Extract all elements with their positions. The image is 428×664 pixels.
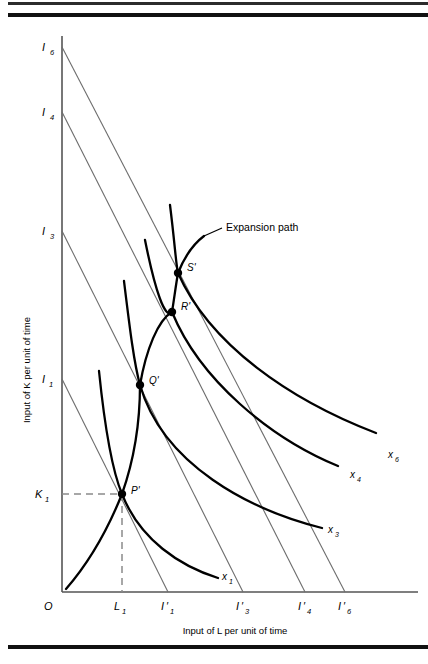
expansion-path-curve [66,236,204,589]
isoquant-label-sub-x3: 3 [335,531,339,538]
x-tick-label-I6-prime: I ′ 6 [338,600,352,616]
isoquant-label-base-x6: x [387,449,394,460]
y-tick-label-I1: I 1 [42,373,53,389]
tangency-point-R [168,308,176,316]
x-tick-sub-L1: 1 [122,607,126,616]
y-tick-sub-I3: 3 [50,232,55,241]
x-tick-base-I3prime: I [236,600,239,612]
y-axis-title: Input of K per unit of time [21,317,32,423]
tangency-point-Q [136,381,144,389]
isoquant-label-x3: x 3 [327,524,339,538]
isoquant-curve-x1 [99,371,218,578]
tangency-label-R: R' [181,301,191,312]
y-tick-base-K1: K [35,488,43,500]
isoquant-label-sub-x6: 6 [395,456,399,463]
x-tick-prime-I3prime: ′ [241,600,244,612]
x-tick-base-I6prime: I [338,600,341,612]
x-tick-prime-I6prime: ′ [343,600,346,612]
y-tick-label-I6: I 6 [42,41,55,57]
isoquant-label-base-x1: x [221,571,228,582]
tangency-point-P [118,490,126,498]
isocost-line-4 [62,112,305,592]
x-tick-label-I1-prime: I ′ 1 [161,600,174,616]
y-tick-label-I3: I 3 [42,225,55,241]
x-axis-title: Input of L per unit of time [183,625,288,636]
isoquant-label-base-x4: x [349,469,356,480]
expansion-path-leader-line [204,228,222,236]
tangency-point-S [174,269,182,277]
tangency-label-S: S' [187,262,197,273]
isoquant-label-x4: x 4 [349,469,361,483]
y-tick-sub-K1: 1 [45,495,49,504]
isoquant-label-sub-x1: 1 [229,578,233,585]
isocost-line-6 [62,47,345,592]
x-tick-sub-I4prime: 4 [307,607,311,616]
figure-container: P' Q' R' S' Expansion path I 6 I 4 I 3 I… [0,0,428,664]
y-tick-base-I3: I [42,225,45,237]
tangency-label-Q: Q' [149,375,160,386]
y-tick-sub-I6: 6 [50,48,55,57]
y-tick-sub-I4: 4 [50,113,54,122]
isoquant-expansion-path-chart: P' Q' R' S' Expansion path I 6 I 4 I 3 I… [0,0,428,664]
expansion-path-annotation: Expansion path [226,221,299,233]
x-tick-sub-I6prime: 6 [347,607,352,616]
isoquant-label-base-x3: x [327,524,334,535]
x-tick-prime-I1prime: ′ [166,600,169,612]
x-tick-prime-I4prime: ′ [303,600,306,612]
y-tick-label-K1: K 1 [35,488,49,504]
x-tick-base-I1prime: I [161,600,164,612]
x-tick-sub-I3prime: 3 [245,607,250,616]
tangency-label-P: P' [131,485,141,496]
x-tick-sub-I1prime: 1 [170,607,174,616]
isoquant-label-x6: x 6 [387,449,399,463]
x-tick-label-I4-prime: I ′ 4 [298,600,311,616]
isoquant-label-x1: x 1 [221,571,233,585]
x-tick-label-I3-prime: I ′ 3 [236,600,250,616]
y-tick-base-I6: I [42,41,45,53]
x-tick-label-L1: L 1 [114,600,126,616]
y-tick-label-I4: I 4 [42,106,54,122]
x-tick-base-L1: L [114,600,120,612]
x-tick-base-I4prime: I [298,600,301,612]
isoquant-label-sub-x4: 4 [357,476,361,483]
y-tick-base-I4: I [42,106,45,118]
y-tick-sub-I1: 1 [49,380,53,389]
y-tick-base-I1: I [42,373,45,385]
origin-label: O [44,600,53,612]
